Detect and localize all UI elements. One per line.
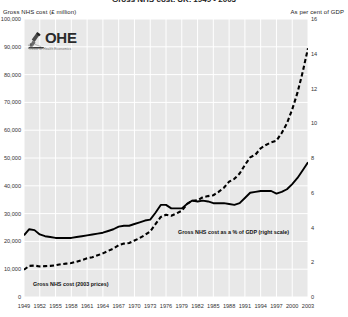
series-label-gdp: Gross NHS cost as a % of GDP (right scal… <box>178 229 289 235</box>
left-axis-tick-label: 30,000 <box>0 211 21 217</box>
chart-title: Gross NHS cost, UK, 1949 - 2003 <box>0 0 348 2</box>
right-axis-tick-label: 14 <box>311 51 331 57</box>
series-lines <box>24 19 308 297</box>
ohe-logo-text: OHE <box>45 30 77 46</box>
left-axis-header: Gross NHS cost (£ million) <box>3 9 76 15</box>
x-axis-tick-label: 2003 <box>297 303 319 309</box>
left-axis-tick-label: 90,000 <box>0 44 21 50</box>
left-axis-tick-label: 0 <box>0 294 21 300</box>
series-path <box>24 162 308 238</box>
right-axis-tick-label: 12 <box>311 86 331 92</box>
right-axis-tick-label: 10 <box>311 120 331 126</box>
series-label-cost: Gross NHS cost (2003 prices) <box>33 281 109 287</box>
left-axis-tick-label: 100,000 <box>0 16 21 22</box>
left-axis-tick-label: 50,000 <box>0 155 21 161</box>
left-axis-tick-label: 20,000 <box>0 238 21 244</box>
series-path <box>24 48 308 270</box>
right-axis-tick-label: 6 <box>311 190 331 196</box>
right-axis-tick-label: 16 <box>311 16 331 22</box>
right-axis-tick-label: 2 <box>311 259 331 265</box>
right-axis-tick-label: 4 <box>311 225 331 231</box>
left-axis-tick-label: 10,000 <box>0 266 21 272</box>
left-axis-tick-label: 60,000 <box>0 127 21 133</box>
right-axis-tick-label: 0 <box>311 294 331 300</box>
left-axis-tick-label: 80,000 <box>0 72 21 78</box>
left-axis-tick-label: 70,000 <box>0 99 21 105</box>
ohe-logo-subtitle: Office of Health Economics <box>29 47 71 51</box>
plot-area <box>24 19 308 297</box>
ohe-logo: OHE Office of Health Economics <box>27 30 101 56</box>
right-axis-header: As per cent of GDP <box>291 9 345 15</box>
left-axis-tick-label: 40,000 <box>0 183 21 189</box>
chart-figure: Gross NHS cost, UK, 1949 - 2003 Gross NH… <box>0 0 348 317</box>
right-axis-tick-label: 8 <box>311 155 331 161</box>
